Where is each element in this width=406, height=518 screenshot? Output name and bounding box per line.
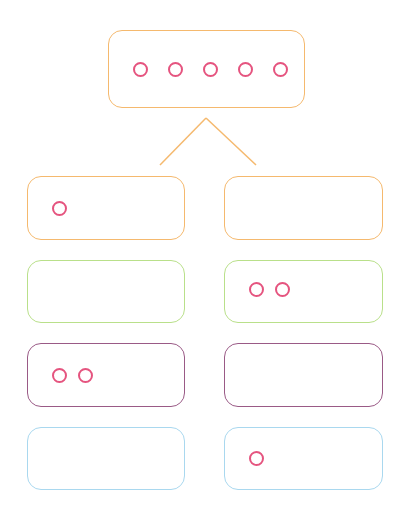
left-box-row-1 — [27, 176, 185, 240]
dot-icon — [249, 451, 264, 466]
dot-icon — [52, 368, 67, 383]
dot-icon — [133, 62, 148, 77]
dot-icon — [52, 201, 67, 216]
left-box-row-3 — [27, 343, 185, 407]
dot-icon — [203, 62, 218, 77]
right-box-row-2 — [224, 260, 383, 323]
right-box-row-3 — [224, 343, 383, 407]
dot-icon — [249, 282, 264, 297]
dot-icon — [275, 282, 290, 297]
right-box-row-4 — [224, 427, 383, 490]
left-box-row-4 — [27, 427, 185, 490]
dot-icon — [238, 62, 253, 77]
root-box — [108, 30, 305, 108]
dot-icon — [273, 62, 288, 77]
dot-icon — [168, 62, 183, 77]
right-box-row-1 — [224, 176, 383, 240]
left-box-row-2 — [27, 260, 185, 323]
dot-icon — [78, 368, 93, 383]
